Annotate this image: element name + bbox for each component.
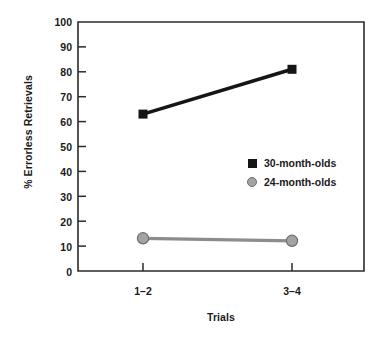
legend-swatch-circle-icon <box>247 177 257 187</box>
series-line-30-month-olds <box>143 69 292 114</box>
plot-area <box>0 0 381 339</box>
legend-swatch-square-icon <box>248 159 257 168</box>
axis-frame <box>78 22 364 271</box>
data-point-marker <box>286 235 297 246</box>
x-axis-ticks <box>143 263 292 271</box>
data-point-marker <box>139 110 148 119</box>
legend-label-30-month-olds: 30-month-olds <box>264 157 336 169</box>
series-30-month-olds <box>139 65 297 119</box>
series-24-month-olds <box>137 233 297 247</box>
chart-figure: % Errorless Retrievals 100 90 80 70 60 5… <box>0 0 381 339</box>
legend-label-24-month-olds: 24-month-olds <box>264 176 336 188</box>
y-axis-ticks <box>78 47 86 246</box>
series-line-24-month-olds <box>143 238 292 241</box>
data-point-marker <box>288 65 297 74</box>
data-point-marker <box>137 233 148 244</box>
